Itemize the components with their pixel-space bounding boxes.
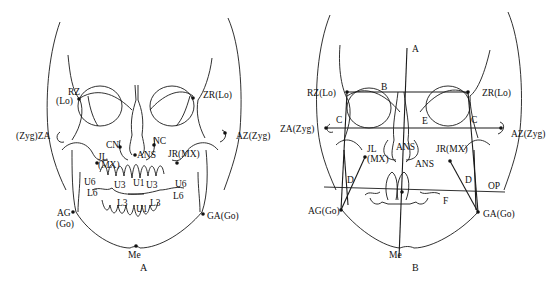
label-u1-top: U1 <box>133 178 145 188</box>
label-jr-b: JR(MX) <box>436 144 468 155</box>
orbit-inner-left <box>88 96 98 126</box>
label-b-line: B <box>381 82 387 92</box>
label-u3-right: U3 <box>146 180 158 190</box>
label-op: OP <box>488 181 500 191</box>
label-jl-mx: (MX) <box>98 160 120 171</box>
line-c-right <box>468 92 478 212</box>
label-c-left: C <box>336 115 342 125</box>
label-u6-left: U6 <box>84 177 96 187</box>
label-ag-go: (Go) <box>56 219 74 230</box>
orbit-inner-right <box>176 96 190 126</box>
label-za: (Zyg)ZA <box>16 131 50 142</box>
orbit-left-b <box>347 88 391 128</box>
incisors-b <box>386 172 409 200</box>
point-jr-b <box>448 159 452 163</box>
cephalometric-diagram: RZ (Lo) ZR(Lo) (Zyg)ZA AZ(Zyg) CN NC ANS… <box>0 0 555 283</box>
orbit-line-left-b <box>347 91 400 112</box>
line-a-midline <box>399 48 407 258</box>
line-op-occlusal <box>324 187 505 192</box>
zyg-left <box>57 132 64 142</box>
mandible <box>72 150 207 248</box>
label-u1-bottom: U1 <box>136 204 148 214</box>
ramus-right <box>198 172 200 212</box>
orbit-right <box>150 86 194 126</box>
label-az: AZ(Zyg) <box>236 131 270 142</box>
orbit-left <box>78 86 122 126</box>
panel-a: RZ (Lo) ZR(Lo) (Zyg)ZA AZ(Zyg) CN NC ANS… <box>16 18 270 273</box>
label-za-b: ZA(Zyg) <box>280 124 314 135</box>
caption-b: B <box>412 262 419 273</box>
skull-outline-left-b <box>317 15 337 190</box>
skull-outline-right <box>224 18 241 190</box>
orbit-line-left <box>80 93 132 110</box>
label-f-line: F <box>443 196 448 206</box>
point-az <box>223 131 227 135</box>
nasal-right <box>138 85 144 155</box>
point-az-b <box>499 126 503 130</box>
label-d-right: D <box>465 175 472 185</box>
label-c-right: C <box>471 115 477 125</box>
label-ans-upper-b: ANS <box>396 142 415 152</box>
orbit-line-right-b <box>420 90 468 112</box>
label-zr-b: ZR(Lo) <box>482 88 511 99</box>
label-d-left: D <box>347 175 354 185</box>
ramus-left <box>78 172 80 212</box>
label-ag: AG <box>57 208 71 218</box>
point-ga-b <box>476 210 480 214</box>
label-cn: CN <box>106 140 119 150</box>
label-az-b: AZ(Zyg) <box>511 129 545 140</box>
label-nc: NC <box>153 136 166 146</box>
label-rz-b: RZ(Lo) <box>307 88 336 99</box>
label-zr: ZR(Lo) <box>203 90 232 101</box>
maxilla-left-b <box>336 140 362 150</box>
mandible-b <box>342 210 478 248</box>
label-rz-lo: (Lo) <box>56 96 73 107</box>
point-jr <box>175 161 179 165</box>
point-incisal-b <box>400 190 404 194</box>
label-u3-left: U3 <box>114 180 126 190</box>
label-ans-lower-b: ANS <box>415 159 434 169</box>
point-ag <box>71 210 75 214</box>
label-u6-right: U6 <box>175 179 187 189</box>
point-ag-b <box>339 208 343 212</box>
point-me <box>134 244 138 248</box>
point-zr-b <box>466 90 470 94</box>
caption-a: A <box>140 262 148 273</box>
skull-outline-left <box>47 22 66 190</box>
label-a-line: A <box>412 44 419 54</box>
label-me: Me <box>128 250 141 260</box>
point-rz <box>77 97 81 101</box>
point-za-b <box>324 126 328 130</box>
panel-b: A B RZ(Lo) ZR(Lo) C C E ZA(Zyg) AZ(Zyg) … <box>280 12 545 273</box>
maxilla-right-b <box>464 140 490 150</box>
labels-a: RZ (Lo) ZR(Lo) (Zyg)ZA AZ(Zyg) CN NC ANS… <box>16 87 270 273</box>
label-jl-b: JL <box>367 144 377 154</box>
label-ga-b: GA(Go) <box>483 209 515 220</box>
point-ga <box>201 212 205 216</box>
nasal-cavity-left <box>119 140 128 160</box>
nasal-left <box>130 85 136 155</box>
lower-teeth-b <box>370 198 428 204</box>
label-me-b: Me <box>389 250 402 260</box>
occlusal-curve <box>92 187 184 194</box>
label-ag-b: AG(Go) <box>308 206 340 217</box>
label-ans: ANS <box>137 150 156 160</box>
label-l6-right: L6 <box>173 191 184 201</box>
point-rz-b <box>345 90 349 94</box>
label-jr: JR(MX) <box>168 149 200 160</box>
point-zr <box>191 96 195 100</box>
label-e-line: E <box>422 116 428 126</box>
label-l6-left: L6 <box>87 188 98 198</box>
label-l3-right: L3 <box>150 198 161 208</box>
label-jl-mx-b: (MX) <box>367 154 389 165</box>
label-l3-left: L3 <box>117 198 128 208</box>
skull-outline-right-b <box>504 12 522 190</box>
label-ga: GA(Go) <box>207 211 239 222</box>
line-d-right <box>450 161 478 212</box>
